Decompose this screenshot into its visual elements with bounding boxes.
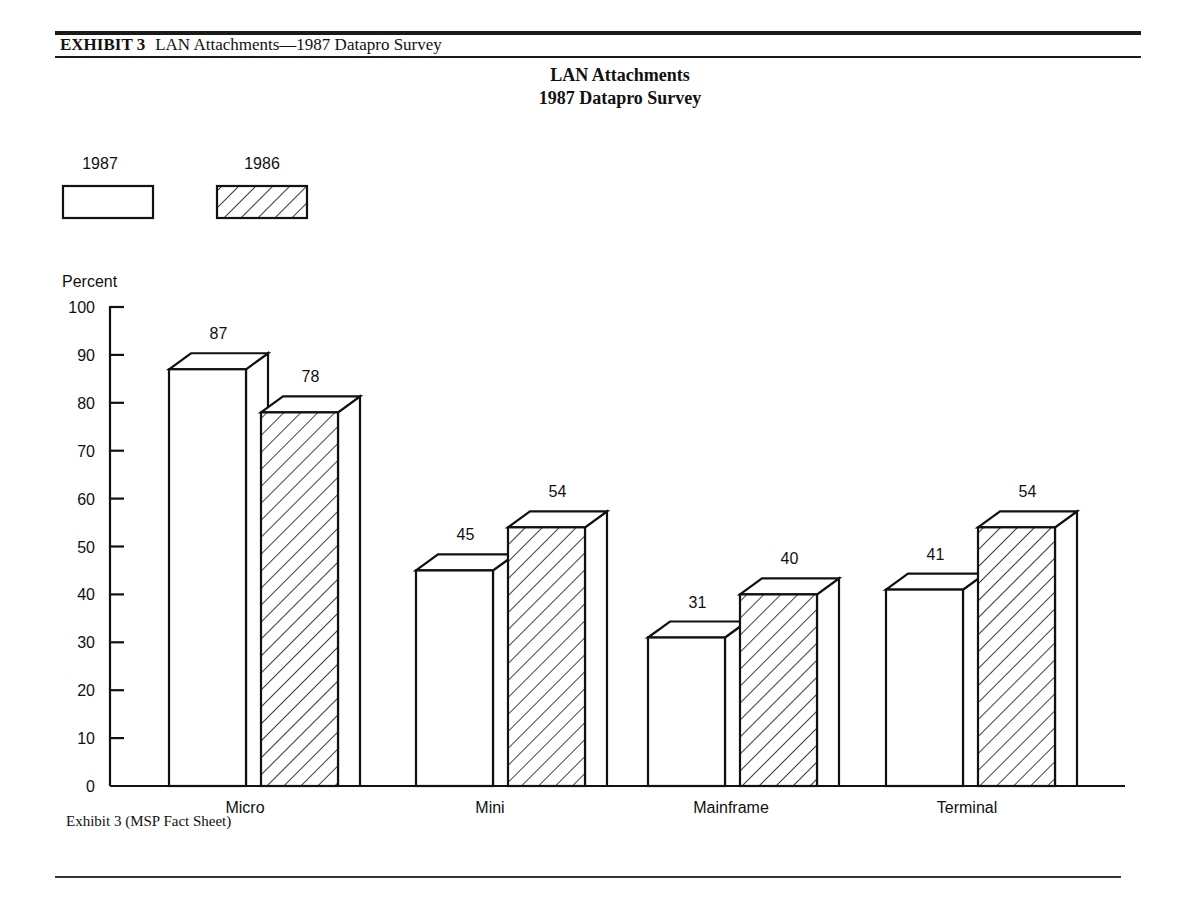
y-axis-label: Percent [62, 273, 118, 290]
bottom-rule [55, 876, 1121, 878]
y-tick-label: 0 [86, 778, 95, 795]
y-tick-label: 90 [77, 347, 95, 364]
x-category-label: Micro [225, 799, 264, 816]
bar-1986: 78 [261, 368, 360, 786]
bar-1987: 31 [648, 594, 747, 786]
y-tick-label: 80 [77, 395, 95, 412]
x-category-label: Mini [475, 799, 504, 816]
bar-1987: 87 [169, 325, 268, 786]
bar-value-label: 41 [927, 546, 945, 563]
bar-value-label: 40 [781, 550, 799, 567]
bar-value-label: 54 [1019, 483, 1037, 500]
legend-label: 1986 [244, 155, 280, 172]
chart-subtitle: 1987 Datapro Survey [539, 88, 702, 108]
bar-value-label: 45 [457, 526, 475, 543]
bar-value-label: 87 [210, 325, 228, 342]
bar-value-label: 31 [689, 594, 707, 611]
y-tick-label: 20 [77, 682, 95, 699]
bar-1987: 41 [886, 546, 985, 786]
y-tick-label: 10 [77, 730, 95, 747]
bar-group-micro: 8778Micro [169, 325, 360, 816]
bar-1986: 54 [978, 483, 1077, 786]
legend-label: 1987 [82, 155, 118, 172]
bar-group-mainframe: 3140Mainframe [648, 550, 839, 816]
bar-chart: LAN Attachments 1987 Datapro Survey 1987… [0, 0, 1186, 910]
y-tick-label: 60 [77, 491, 95, 508]
y-tick-label: 30 [77, 634, 95, 651]
bar-group-terminal: 4154Terminal [886, 483, 1077, 816]
bar-1986: 54 [508, 483, 607, 786]
chart-title: LAN Attachments [550, 65, 690, 85]
x-category-label: Mainframe [693, 799, 769, 816]
bar-group-mini: 4554Mini [416, 483, 607, 816]
legend: 19871986 [63, 155, 307, 218]
y-tick-label: 40 [77, 586, 95, 603]
y-tick-label: 100 [68, 299, 95, 316]
legend-swatch-plain [63, 186, 153, 218]
bar-value-label: 54 [549, 483, 567, 500]
bar-value-label: 78 [302, 368, 320, 385]
y-tick-label: 50 [77, 539, 95, 556]
legend-swatch-hatched [217, 186, 307, 218]
bars: 8778Micro4554Mini3140Mainframe4154Termin… [169, 325, 1077, 816]
bar-1987: 45 [416, 526, 515, 786]
source-note: Exhibit 3 (MSP Fact Sheet) [66, 813, 231, 830]
x-category-label: Terminal [937, 799, 997, 816]
bar-1986: 40 [740, 550, 839, 786]
y-tick-label: 70 [77, 443, 95, 460]
